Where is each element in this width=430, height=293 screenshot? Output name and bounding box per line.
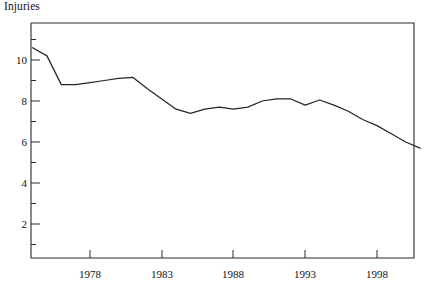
- x-axis-ticks: [90, 250, 377, 258]
- x-axis-label-1993: 1993: [294, 268, 317, 280]
- data-series-injuries: [33, 48, 420, 148]
- x-axis-label-1988: 1988: [222, 268, 245, 280]
- y-axis-label-10: 10: [16, 54, 28, 66]
- plot-frame: [31, 23, 414, 258]
- y-axis-label-8: 8: [22, 95, 28, 107]
- y-axis-tick-labels: 10 8 6 4 2: [16, 54, 28, 230]
- y-axis-ticks: [31, 40, 40, 245]
- x-axis-label-1983: 1983: [151, 268, 174, 280]
- chart-container: Injuries 10 8 6 4 2: [0, 0, 430, 293]
- line-chart-plot: 10 8 6 4 2 1978 1983 1988 1993 1998: [0, 0, 430, 293]
- y-axis-label-4: 4: [22, 177, 28, 189]
- y-axis-label-2: 2: [22, 218, 28, 230]
- x-axis-label-1998: 1998: [366, 268, 389, 280]
- y-axis-label-6: 6: [22, 136, 28, 148]
- x-axis-tick-labels: 1978 1983 1988 1993 1998: [79, 268, 389, 280]
- x-axis-label-1978: 1978: [79, 268, 102, 280]
